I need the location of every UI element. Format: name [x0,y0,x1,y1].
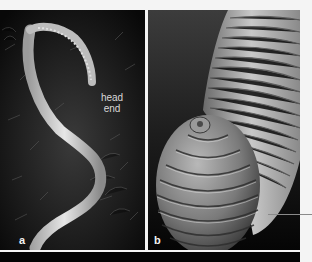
panel-label-a: a [19,234,25,246]
annotation-line-2: end [99,103,125,114]
callout-pointer-line [268,214,312,215]
annotation-line-1: head [99,92,125,103]
bottom-caption-band [0,252,300,262]
worm-photo-image [0,10,145,250]
panel-a-photo: head end a [0,10,145,250]
panel-label-b: b [154,234,161,246]
head-end-annotation: head end [99,92,125,114]
figure: head end a [0,0,312,262]
